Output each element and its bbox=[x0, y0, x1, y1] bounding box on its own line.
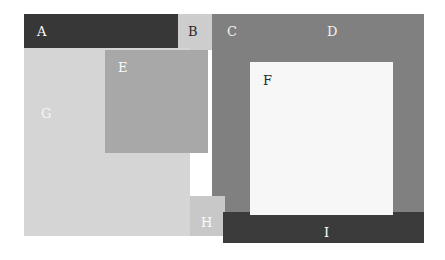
region-c-label: C bbox=[227, 25, 237, 38]
region-i-label: I bbox=[324, 226, 330, 239]
region-f-label: F bbox=[263, 74, 273, 87]
region-i: I bbox=[223, 212, 424, 243]
region-g-label: G bbox=[41, 107, 52, 120]
region-e-label: E bbox=[118, 61, 128, 74]
region-h-label: H bbox=[201, 216, 213, 229]
region-e: E bbox=[105, 50, 208, 153]
figure-canvas: A B C D G E H I F bbox=[0, 0, 445, 260]
region-h: H bbox=[190, 196, 225, 236]
region-b: B bbox=[178, 14, 212, 50]
region-f: F bbox=[250, 62, 393, 215]
region-d-label: D bbox=[327, 25, 338, 38]
region-a-label: A bbox=[37, 25, 47, 38]
region-b-label: B bbox=[188, 25, 198, 38]
region-a: A bbox=[24, 14, 178, 48]
